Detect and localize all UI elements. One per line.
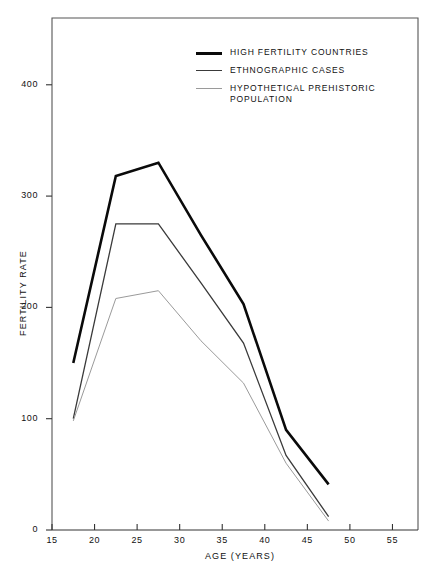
legend-item-label: HYPOTHETICAL PREHISTORIC POPULATION <box>230 82 376 105</box>
legend-item: ETHNOGRAPHIC CASES <box>196 64 416 76</box>
y-tick-label: 300 <box>4 190 38 200</box>
legend-item: HIGH FERTILITY COUNTRIES <box>196 46 416 58</box>
x-tick-label: 55 <box>380 535 404 545</box>
y-tick-label: 400 <box>4 79 38 89</box>
x-tick-label: 50 <box>338 535 362 545</box>
series-line-2 <box>73 291 328 521</box>
data-series-group <box>73 163 328 521</box>
legend-line-swatch-icon <box>196 88 222 89</box>
x-tick-marks <box>52 524 392 530</box>
fertility-rate-chart: 0100200300400 152025303540455055 FERTILI… <box>0 0 436 573</box>
legend-item-label: HIGH FERTILITY COUNTRIES <box>230 46 369 58</box>
legend-item: HYPOTHETICAL PREHISTORIC POPULATION <box>196 82 416 105</box>
series-line-0 <box>73 163 328 485</box>
x-tick-label: 40 <box>253 535 277 545</box>
x-tick-label: 15 <box>40 535 64 545</box>
x-tick-label: 20 <box>83 535 107 545</box>
y-tick-marks <box>46 85 52 530</box>
x-tick-label: 25 <box>125 535 149 545</box>
x-tick-label: 30 <box>168 535 192 545</box>
series-line-1 <box>73 224 328 517</box>
legend-line-swatch-icon <box>196 52 222 55</box>
y-tick-label: 100 <box>4 413 38 423</box>
x-axis-title: AGE (YEARS) <box>160 551 320 561</box>
legend-item-label: ETHNOGRAPHIC CASES <box>230 64 345 76</box>
x-tick-label: 45 <box>295 535 319 545</box>
y-axis-title: FERTILITY RATE <box>18 233 28 353</box>
chart-legend: HIGH FERTILITY COUNTRIESETHNOGRAPHIC CAS… <box>196 46 416 111</box>
x-tick-label: 35 <box>210 535 234 545</box>
y-tick-label: 0 <box>4 524 38 534</box>
legend-line-swatch-icon <box>196 70 222 71</box>
